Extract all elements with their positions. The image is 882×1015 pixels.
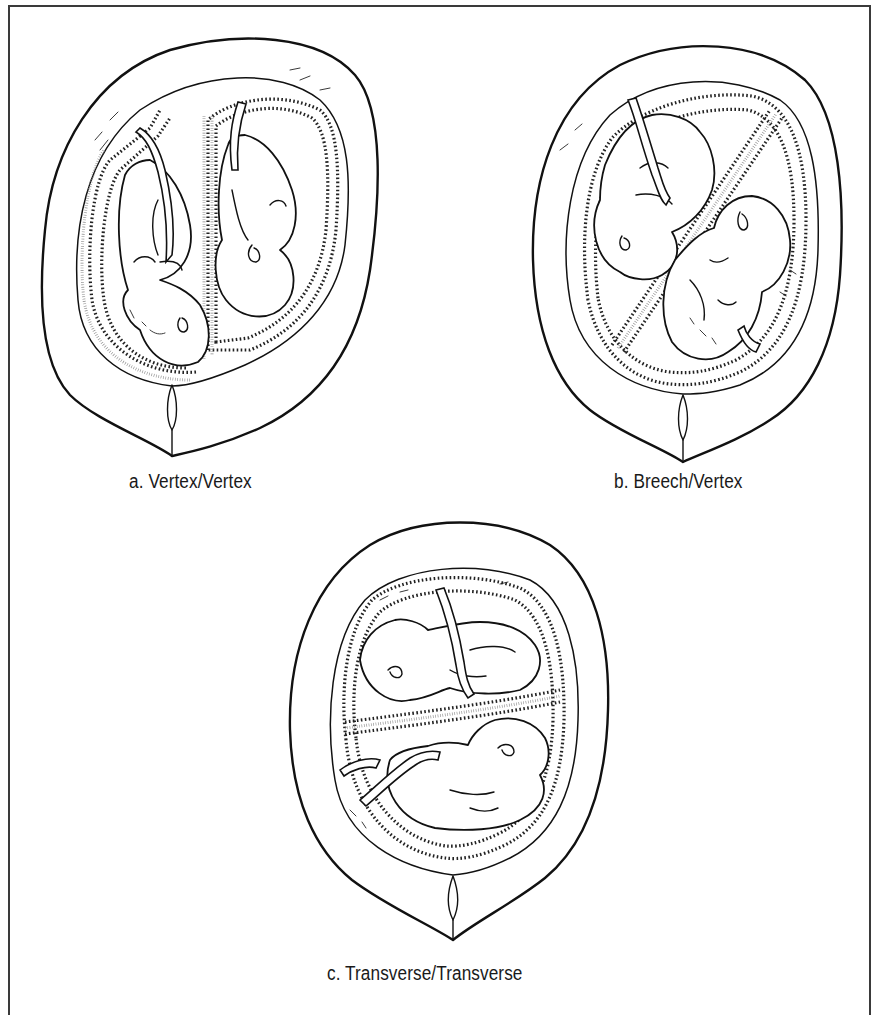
- caption-transverse-transverse: c. Transverse/Transverse: [327, 962, 522, 985]
